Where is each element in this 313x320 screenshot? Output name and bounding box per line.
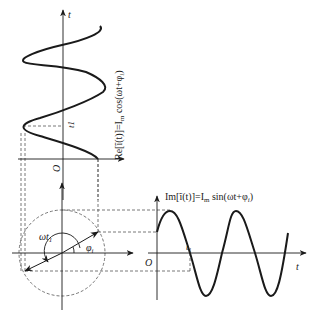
phasor-vector-t1 [25,253,62,271]
top-cosine-curve [23,26,105,159]
right-t-axis-label: t [296,261,299,272]
right-origin-label: O [145,257,152,268]
phi-i-arc [73,247,74,253]
top-curve-label: Re[ĩ(t)]=Im cos(ωt+φi) [113,70,126,160]
top-t1-label: t1 [66,121,76,128]
omega-t1-label: ωt1 [39,231,52,244]
diagram-canvas: t O t1 Re[ĩ(t)]=Im cos(ωt+φi) ωt1 φi Im[… [0,0,313,320]
top-t-axis-label: t [68,9,71,20]
phasor-diagram: t O t1 Re[ĩ(t)]=Im cos(ωt+φi) ωt1 φi Im[… [0,0,313,320]
right-curve-label: Im[ĩ(t)]=Im sin(ωt+φi) [165,191,253,204]
right-sine-curve [157,211,288,296]
top-origin-label: O [51,165,62,172]
right-t1-label: t1 [186,242,192,253]
